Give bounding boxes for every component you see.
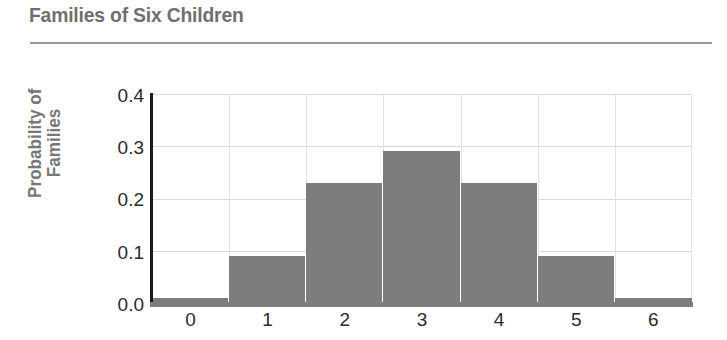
chart-page: Families of Six Children Probability of … — [0, 0, 727, 340]
gridline-horizontal — [152, 146, 692, 147]
gridline-vertical — [691, 94, 692, 303]
x-tick-label: 6 — [615, 310, 692, 329]
x-tick-label: 3 — [383, 310, 460, 329]
y-axis-tick-labels: 0.4 0.3 0.2 0.1 0.0 — [96, 0, 144, 340]
x-axis-spine — [150, 302, 693, 307]
y-axis-label: Probability of Families — [9, 37, 79, 249]
bar — [306, 183, 383, 303]
y-axis-spine — [150, 93, 153, 304]
bar — [461, 183, 538, 303]
y-axis-label-line-2: Families — [44, 109, 63, 177]
x-tick-label: 1 — [229, 310, 306, 329]
x-tick-label: 4 — [461, 310, 538, 329]
gridline-vertical — [615, 94, 616, 303]
bar — [229, 256, 306, 303]
y-tick-label: 0.3 — [100, 138, 144, 157]
y-tick-label: 0.2 — [100, 190, 144, 209]
y-tick-label: 0.4 — [100, 86, 144, 105]
y-tick-label: 0.1 — [100, 243, 144, 262]
x-tick-label: 0 — [152, 310, 229, 329]
y-tick-label: 0.0 — [100, 295, 144, 314]
x-axis-tick-labels: 0 1 2 3 4 5 6 — [152, 310, 692, 338]
gridline-horizontal — [152, 94, 692, 95]
y-axis-label-line-1: Probability of — [25, 88, 44, 197]
plot-area — [152, 94, 692, 303]
x-tick-label: 2 — [306, 310, 383, 329]
x-tick-label: 5 — [538, 310, 615, 329]
bar — [538, 256, 615, 303]
bar — [383, 151, 460, 303]
